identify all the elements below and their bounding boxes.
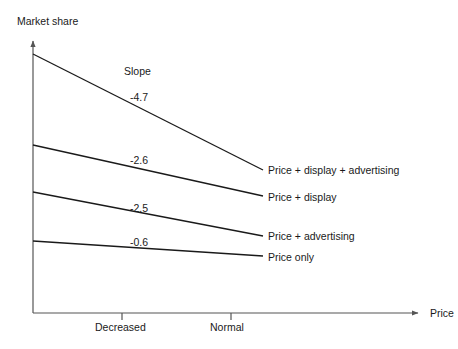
slope-annotation-header: Slope xyxy=(124,66,151,77)
x-tick-label-normal: Normal xyxy=(210,322,244,333)
slope-value-price-only: -0.6 xyxy=(130,237,148,248)
x-axis-title: Price xyxy=(430,308,454,319)
chart-container: Market share Price Decreased Normal Slop… xyxy=(0,0,458,349)
slope-value-price-advertising: -2.5 xyxy=(130,203,148,214)
series-label-price-only: Price only xyxy=(268,252,314,263)
slope-value-price-display-advertising: -4.7 xyxy=(130,92,148,103)
series-line-price-advertising xyxy=(33,192,263,236)
y-axis-title: Market share xyxy=(17,16,78,27)
x-tick-label-decreased: Decreased xyxy=(95,322,146,333)
series-label-price-display: Price + display xyxy=(268,192,337,203)
series-label-price-advertising: Price + advertising xyxy=(268,231,355,242)
series-label-price-display-advertising: Price + display + advertising xyxy=(268,165,399,176)
slope-value-price-display: -2.6 xyxy=(130,155,148,166)
